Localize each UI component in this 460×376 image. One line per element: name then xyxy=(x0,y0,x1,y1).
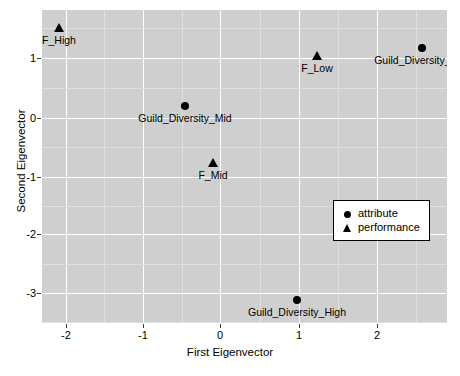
gridline-vertical-major xyxy=(220,10,221,323)
gridline-horizontal-major xyxy=(42,293,447,294)
circle-marker-icon xyxy=(181,102,189,110)
scatter-plot-figure: F_High F_Low F_Mid Guild_Diversity_Mid G… xyxy=(0,0,460,376)
x-tick-mark xyxy=(220,324,221,328)
gridline-horizontal-minor xyxy=(42,264,447,265)
x-tick-label: 1 xyxy=(296,329,302,341)
x-axis-label: First Eigenvector xyxy=(0,346,460,358)
y-tick-label: -2 xyxy=(26,228,36,240)
y-tick-label: -3 xyxy=(26,287,36,299)
triangle-marker-icon xyxy=(341,221,355,234)
gridline-vertical-major xyxy=(299,10,300,323)
gridline-vertical-minor xyxy=(182,10,183,323)
gridline-horizontal-minor xyxy=(42,147,447,148)
y-tick-mark xyxy=(37,234,41,235)
triangle-marker-icon xyxy=(208,158,218,167)
data-point-label: Guild_Diversity_High xyxy=(248,306,346,318)
chart-legend[interactable]: attribute performance xyxy=(333,200,430,241)
gridline-horizontal-major xyxy=(42,177,447,178)
gridline-horizontal-minor xyxy=(42,28,447,29)
legend-entry-performance[interactable]: performance xyxy=(341,221,420,234)
x-tick-mark xyxy=(143,324,144,328)
legend-entry-label: performance xyxy=(355,221,420,234)
data-point-label: Guild_Diversity_Mid xyxy=(138,112,231,124)
plot-panel: F_High F_Low F_Mid Guild_Diversity_Mid G… xyxy=(42,10,447,323)
data-point-label: F_Low xyxy=(301,62,333,74)
triangle-marker-icon xyxy=(54,23,64,32)
x-tick-mark xyxy=(66,324,67,328)
x-tick-mark xyxy=(299,324,300,328)
y-tick-mark xyxy=(37,293,41,294)
y-tick-label: -1 xyxy=(26,171,36,183)
y-tick-mark xyxy=(37,118,41,119)
data-point-label: F_Mid xyxy=(198,169,227,181)
data-point-label: F_High xyxy=(42,34,76,46)
circle-marker-icon xyxy=(341,207,355,220)
gridline-vertical-minor xyxy=(338,10,339,323)
circle-marker-icon xyxy=(293,296,301,304)
gridline-horizontal-minor xyxy=(42,322,447,323)
x-tick-label: -1 xyxy=(138,329,148,341)
gridline-vertical-major xyxy=(143,10,144,323)
y-tick-label: 0 xyxy=(30,112,36,124)
circle-marker-icon xyxy=(418,44,426,52)
gridline-vertical-minor xyxy=(104,10,105,323)
legend-entry-label: attribute xyxy=(355,207,398,220)
x-tick-label: 2 xyxy=(374,329,380,341)
gridline-vertical-major xyxy=(66,10,67,323)
x-tick-mark xyxy=(377,324,378,328)
y-tick-mark xyxy=(37,177,41,178)
data-point-label: Guild_Diversity_Low xyxy=(374,54,447,66)
triangle-marker-icon xyxy=(312,51,322,60)
y-tick-label: 1 xyxy=(30,52,36,64)
gridline-horizontal-major xyxy=(42,118,447,119)
legend-entry-attribute[interactable]: attribute xyxy=(341,207,420,220)
x-tick-label: -2 xyxy=(61,329,71,341)
y-axis-label: Second Eigenvector xyxy=(15,71,27,251)
gridline-horizontal-minor xyxy=(42,88,447,89)
gridline-vertical-minor xyxy=(260,10,261,323)
y-tick-mark xyxy=(37,58,41,59)
x-tick-label: 0 xyxy=(217,329,223,341)
